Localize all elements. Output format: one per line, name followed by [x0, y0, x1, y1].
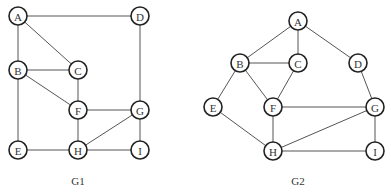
- node-label: B: [236, 58, 243, 70]
- node-b: B: [9, 61, 27, 79]
- node-label: F: [75, 105, 81, 117]
- node-label: C: [294, 58, 301, 70]
- node-label: H: [269, 146, 277, 158]
- node-label: D: [354, 58, 362, 70]
- edge-g-h: [273, 107, 375, 151]
- node-e: E: [204, 98, 222, 116]
- node-label: H: [74, 145, 82, 157]
- node-label: I: [373, 146, 377, 158]
- graph-g2: ABCDEFGHIG2: [204, 12, 384, 187]
- node-d: D: [349, 54, 367, 72]
- node-label: G: [371, 102, 379, 114]
- node-h: H: [69, 141, 87, 159]
- node-label: E: [210, 102, 217, 114]
- node-b: B: [231, 54, 249, 72]
- edge-a-d: [298, 21, 358, 63]
- node-e: E: [9, 141, 27, 159]
- node-c: C: [69, 61, 87, 79]
- node-a: A: [9, 7, 27, 25]
- node-label: G: [136, 105, 144, 117]
- node-label: I: [138, 145, 142, 157]
- node-h: H: [264, 142, 282, 160]
- node-label: B: [14, 65, 21, 77]
- node-f: F: [264, 98, 282, 116]
- node-label: E: [15, 145, 22, 157]
- node-label: C: [74, 65, 81, 77]
- graph-g1: ADBCFGEHIG1: [9, 7, 149, 187]
- graph-caption: G2: [291, 175, 304, 187]
- node-i: I: [131, 141, 149, 159]
- edge-a-b: [240, 21, 298, 63]
- node-label: A: [14, 11, 22, 23]
- node-d: D: [131, 7, 149, 25]
- node-label: D: [136, 11, 144, 23]
- edge-a-c: [18, 16, 78, 70]
- graph-diagram-canvas: ADBCFGEHIG1 ABCDEFGHIG2: [0, 0, 391, 192]
- node-g: G: [131, 101, 149, 119]
- edge-g-h: [78, 110, 140, 150]
- node-a: A: [289, 12, 307, 30]
- node-label: A: [294, 16, 302, 28]
- edge-b-f: [18, 70, 78, 110]
- node-g: G: [366, 98, 384, 116]
- node-f: F: [69, 101, 87, 119]
- node-i: I: [366, 142, 384, 160]
- node-c: C: [289, 54, 307, 72]
- edge-e-h: [213, 107, 273, 151]
- graph-caption: G1: [71, 175, 84, 187]
- node-label: F: [270, 102, 276, 114]
